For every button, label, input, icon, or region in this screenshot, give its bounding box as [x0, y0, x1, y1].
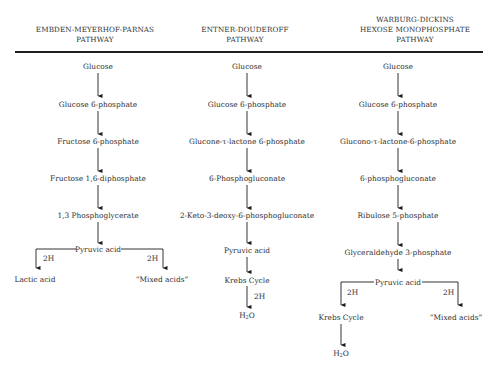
label-2h: 2H: [443, 288, 454, 297]
node-glucose-6-phosphate: Glucose 6-phosphate: [208, 100, 286, 109]
node-mixed-acids: “Mixed acids”: [430, 313, 483, 322]
node-krebs-cycle: Krebs Cycle: [318, 313, 363, 322]
node-pyruvic-acid: Pyruvic acid: [75, 245, 121, 254]
node-glyceraldehyde-3-phosphate: Glyceraldehyde 3-phosphate: [345, 248, 452, 257]
node-fructose-1-6-diphosphate: Fructose 1,6-diphosphate: [50, 174, 146, 183]
node-glucono-lactone-6-phosphate: Glucono-τ-lactone-6-phosphate: [340, 137, 456, 146]
node-water: H2O: [239, 311, 255, 322]
node-glucose-6-phosphate: Glucose 6-phosphate: [359, 100, 437, 109]
node-glucose: Glucose: [383, 62, 413, 71]
node-water: H2O: [333, 349, 349, 360]
node-1-3-phosphoglycerate: 1,3 Phosphoglycerate: [57, 211, 138, 220]
node-fructose-6-phosphate: Fructose 6-phosphate: [57, 137, 139, 146]
node-6-phosphogluconate: 6-Phosphogluconate: [209, 174, 285, 183]
node-ribulose-5-phosphate: Ribulose 5-phosphate: [358, 211, 439, 220]
node-pyruvic-acid: Pyruvic acid: [224, 246, 270, 255]
node-glucone-lactone-6-phosphate: Glucone-τ-lactone 6-phosphate: [189, 137, 305, 146]
label-2h: 2H: [254, 292, 265, 301]
node-glucose: Glucose: [232, 62, 262, 71]
node-glucose: Glucose: [83, 62, 113, 71]
label-2h: 2H: [43, 254, 54, 263]
label-2h: 2H: [147, 254, 158, 263]
node-lactic-acid: Lactic acid: [15, 275, 56, 284]
water-o: O: [343, 349, 349, 358]
node-pyruvic-acid: Pyruvic acid: [375, 278, 421, 287]
node-6-phosphogluconate: 6-phosphogluconate: [360, 174, 436, 183]
label-2h: 2H: [347, 288, 358, 297]
node-2-keto-3-deoxy-6-phosphogluconate: 2-Keto-3-deoxy-6-phosphogluconate: [180, 211, 314, 220]
node-mixed-acids: “Mixed acids”: [136, 275, 189, 284]
node-krebs-cycle: Krebs Cycle: [224, 276, 269, 285]
node-glucose-6-phosphate: Glucose 6-phosphate: [59, 100, 137, 109]
water-o: O: [249, 311, 255, 320]
